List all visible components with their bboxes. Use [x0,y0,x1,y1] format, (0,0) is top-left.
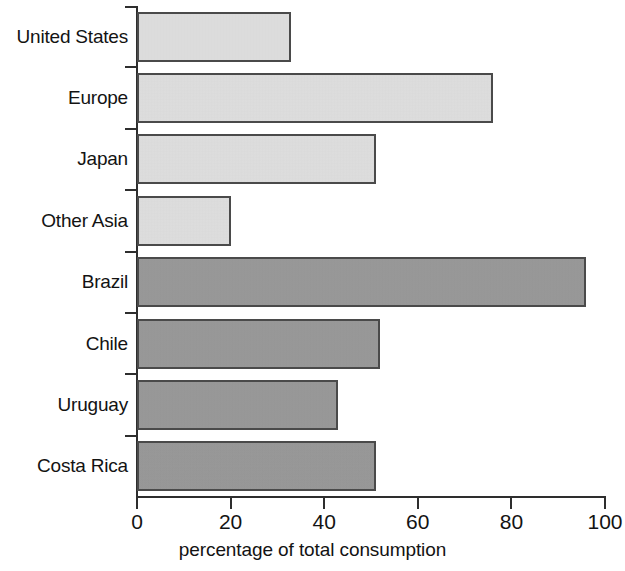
bar [137,73,493,123]
x-tick [510,498,512,509]
bar [137,257,586,307]
plot-area [137,6,605,497]
bar [137,196,231,246]
category-label: Chile [86,333,128,355]
x-tick [323,498,325,509]
category-label: Costa Rica [37,455,128,477]
bar-row [137,73,605,123]
bar-row [137,380,605,430]
bar-chart: United StatesEuropeJapanOther AsiaBrazil… [0,0,625,571]
x-tick [230,498,232,509]
bar [137,12,291,62]
x-tick-label: 20 [219,509,242,534]
x-tick [604,498,606,509]
bar-row [137,441,605,491]
bar-row [137,319,605,369]
bar-row [137,134,605,184]
x-tick-label: 100 [587,509,622,534]
x-axis-title: percentage of total consumption [0,538,625,561]
category-label: Japan [77,148,128,170]
bar [137,441,376,491]
category-label: Uruguay [58,394,128,416]
category-label: Europe [68,87,128,109]
bar [137,380,338,430]
x-tick [417,498,419,509]
x-tick-label: 0 [131,509,143,534]
bar-row [137,257,605,307]
category-label: Other Asia [41,210,128,232]
category-label: United States [17,26,128,48]
bar [137,134,376,184]
x-tick-label: 40 [313,509,336,534]
x-tick [136,498,138,509]
bar-row [137,196,605,246]
x-tick-label: 80 [500,509,523,534]
bar [137,319,380,369]
category-label: Brazil [82,271,128,293]
bar-row [137,12,605,62]
x-tick-label: 60 [406,509,429,534]
